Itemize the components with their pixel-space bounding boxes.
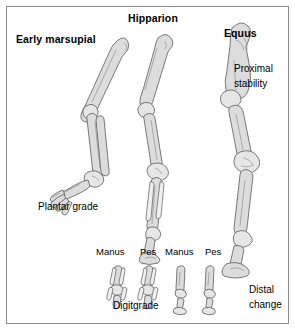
skeleton-illustration — [0, 0, 295, 330]
label-early-marsupial: Early marsupial — [16, 33, 96, 45]
label-distal-change-line1: Distal — [249, 284, 274, 296]
label-plantar-grade: Plantar grade — [38, 201, 98, 213]
label-hipparion: Hipparion — [128, 12, 178, 24]
limb-equus — [220, 23, 259, 278]
label-equus: Equus — [224, 27, 257, 39]
figure-root: Early marsupial Hipparion Equus Proximal… — [0, 0, 295, 330]
equus-pes-diagram — [202, 266, 215, 315]
label-digitgrade: Digitgrade — [113, 300, 159, 312]
label-hipparion-manus: Manus — [96, 247, 125, 258]
equus-manus-diagram — [173, 266, 186, 315]
limb-hipparion — [138, 35, 173, 265]
label-equus-manus: Manus — [165, 247, 194, 258]
label-hipparion-pes: Pes — [140, 247, 156, 258]
label-proximal-stability-line2: stability — [234, 78, 267, 90]
label-proximal-stability-line1: Proximal — [234, 63, 273, 75]
limb-early-marsupial — [50, 38, 128, 215]
label-equus-pes: Pes — [205, 247, 221, 258]
label-distal-change-line2: change — [249, 299, 282, 311]
